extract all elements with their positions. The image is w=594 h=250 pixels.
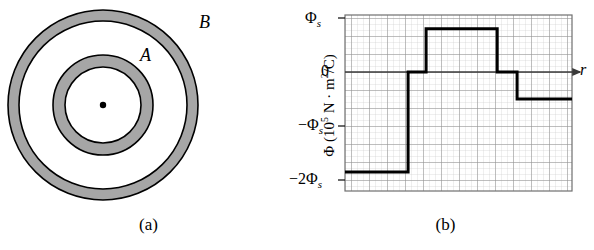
panel-b-flux-graph: Φ (105 N · m2/C) Φs 0 −Φs −2Φs — [297, 0, 594, 250]
y-axis-ticks — [338, 18, 345, 180]
shell-B-label: B — [199, 12, 210, 33]
shell-A-label: A — [140, 45, 151, 66]
panel-a-shell-diagram: A B — [0, 0, 297, 250]
caption-panel-a: (a) — [0, 215, 297, 235]
shell-diagram-svg — [0, 0, 297, 215]
flux-graph-svg — [297, 0, 594, 215]
caption-panel-b: (b) — [297, 215, 594, 235]
plot-grid — [345, 15, 572, 191]
x-axis-label-r: r — [580, 61, 586, 79]
physics-figure: A B Φ (105 N · m2/C) Φs 0 −Φs −2Φs — [0, 0, 594, 250]
point-charge-dot — [100, 102, 106, 108]
